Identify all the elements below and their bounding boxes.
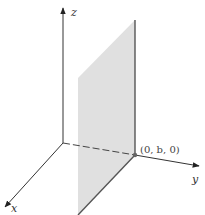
y-axis	[135, 155, 199, 166]
diagram-canvas: z y x (0, b, 0)	[0, 0, 205, 215]
point-0-b-0-marker	[133, 153, 137, 157]
x-axis-label: x	[11, 202, 18, 215]
z-axis-label: z	[70, 6, 77, 19]
y-axis-label: y	[191, 173, 199, 186]
point-label: (0, b, 0)	[140, 144, 180, 155]
x-axis	[5, 143, 63, 207]
